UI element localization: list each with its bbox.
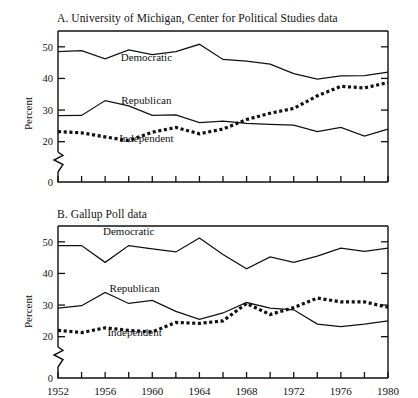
x-tick-label: 1956 (94, 385, 117, 397)
series-annotation: Democratic (121, 51, 172, 63)
series-line-democratic (58, 44, 388, 79)
series-annotation: Independent (119, 132, 173, 144)
series-line-democratic (58, 238, 388, 269)
x-tick-label: 1964 (188, 385, 211, 397)
y-tick-label: 0 (48, 373, 53, 384)
panel-b-plot: 0203040501952195619601964196819721976198… (0, 198, 418, 398)
series-annotation: Republican (110, 282, 161, 294)
x-tick-label: 1976 (330, 385, 353, 397)
y-tick-label: 40 (43, 268, 54, 279)
panel-a-plot: 020304050DemocraticRepublicanIndependent (0, 0, 418, 200)
series-line-independent (58, 83, 388, 141)
y-tick-label: 0 (48, 177, 53, 188)
figure-root: A. University of Michigan, Center for Po… (0, 0, 418, 398)
series-annotation: Republican (121, 94, 172, 106)
series-annotation: Independent (107, 326, 161, 338)
series-line-republican (58, 101, 388, 136)
x-tick-label: 1972 (283, 385, 305, 397)
panel-a: A. University of Michigan, Center for Po… (0, 0, 418, 200)
series-annotation: Democratic (103, 225, 154, 237)
y-tick-label: 50 (43, 237, 54, 248)
y-tick-label: 20 (43, 136, 54, 147)
y-tick-label: 40 (43, 73, 54, 84)
x-tick-label: 1952 (47, 385, 69, 397)
y-tick-label: 50 (43, 42, 54, 53)
panel-b: B. Gallup Poll data Percent 020304050195… (0, 198, 418, 398)
y-tick-label: 20 (43, 331, 54, 342)
y-tick-label: 30 (43, 300, 54, 311)
x-tick-label: 1960 (141, 385, 164, 397)
y-tick-label: 30 (43, 105, 54, 116)
x-tick-label: 1968 (236, 385, 259, 397)
x-tick-label: 1980 (377, 385, 400, 397)
